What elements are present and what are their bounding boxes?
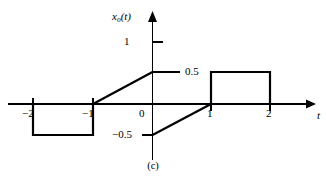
x-tick-label-pos1: 1 <box>207 108 213 119</box>
signal-negative-pulse <box>8 104 93 135</box>
x-tick-label-neg2: −2 <box>22 108 34 119</box>
y-axis-arrowhead <box>148 11 157 22</box>
signal-positive-pulse <box>211 72 308 104</box>
signal-ramp-left <box>93 72 153 104</box>
y-tick-label-neg-half: −0.5 <box>112 129 132 140</box>
y-axis-label-subscript: o <box>117 15 121 24</box>
plot-canvas <box>0 0 326 181</box>
y-axis-label: xo(t) <box>112 11 131 22</box>
figure-caption: (c) <box>0 160 306 171</box>
signal-plot-figure: xo(t) t 1 0.5 −0.5 0 −2 −1 1 2 (c) <box>0 0 326 181</box>
y-tick-label-half: 0.5 <box>185 66 199 77</box>
x-tick-label-neg1: −1 <box>82 108 94 119</box>
x-axis-label: t <box>317 110 320 121</box>
x-tick-label-pos2: 2 <box>266 108 272 119</box>
signal-ramp-right <box>153 104 212 135</box>
y-tick-label-one: 1 <box>124 36 130 47</box>
y-axis-label-arg: (t) <box>121 10 131 22</box>
origin-label: 0 <box>139 108 145 119</box>
